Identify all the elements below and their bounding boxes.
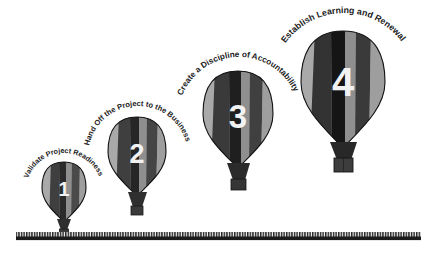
diagram-canvas: 1 Validate Project Readiness [0,0,435,254]
ground-solid-line [16,237,421,241]
balloon-number-text-3: 3 [229,98,247,135]
balloon-number-text-1: 1 [58,178,69,200]
balloon-number-text-4: 4 [332,60,355,104]
balloon-number-1: 1 [58,178,69,200]
ground-bar [16,232,421,240]
balloon-scene-svg: 1 Validate Project Readiness [0,0,435,254]
balloon-number-text-2: 2 [129,139,144,169]
